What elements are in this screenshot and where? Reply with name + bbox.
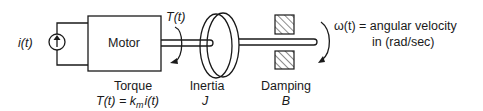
torque-title: Torque xyxy=(114,79,152,93)
angular-velocity-line2: in (rad/sec) xyxy=(372,35,435,49)
current-source xyxy=(49,23,88,65)
damping-symbol: B xyxy=(282,94,290,108)
damper xyxy=(275,15,294,69)
output-shaft xyxy=(239,39,317,45)
current-label: i(t) xyxy=(18,36,33,50)
inertia-title: Inertia xyxy=(190,79,225,93)
motor-shaft xyxy=(161,40,213,46)
torque-symbol: T(t) xyxy=(166,10,185,24)
angular-velocity-line1: ω(t) = angular velocity xyxy=(334,19,457,33)
motor-inertia-damping-diagram: i(t) Motor T(t) ω(t) = angular velocity … xyxy=(0,0,483,111)
damping-title: Damping xyxy=(261,79,311,93)
torque-equation: T(t) = kmi(t) xyxy=(96,94,159,110)
angular-velocity-arrow xyxy=(318,22,329,63)
inertia-symbol: J xyxy=(201,94,209,108)
motor-label: Motor xyxy=(108,36,140,50)
